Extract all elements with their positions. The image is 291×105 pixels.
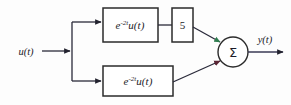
- block-label-top-impulse-response: e-2tu(t): [115, 19, 144, 32]
- block-diagram-canvas: u(t) e-2tu(t) 5 e-2tu(t) Σ y(t): [0, 0, 291, 105]
- wire-gain-to-sum: [193, 27, 220, 42]
- wire-bottom-block-to-sum: [173, 61, 220, 82]
- top-block-exponent: -2t: [120, 19, 128, 27]
- block-label-gain: 5: [180, 19, 186, 31]
- sigma-icon: Σ: [229, 45, 237, 60]
- input-label: u(t): [18, 46, 33, 57]
- output-label: y(t): [258, 34, 273, 45]
- diagram-vector-layer: [0, 0, 291, 105]
- bottom-block-exponent: -2t: [128, 75, 136, 83]
- bottom-block-factor: u(t): [136, 75, 152, 87]
- top-block-factor: u(t): [128, 19, 144, 31]
- block-label-bottom-impulse-response: e-2tu(t): [123, 75, 152, 88]
